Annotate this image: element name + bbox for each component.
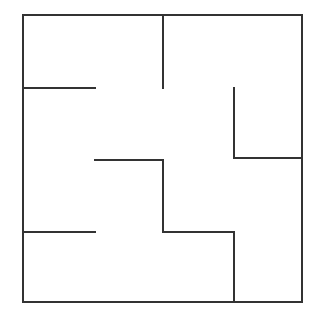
maze-walls (23, 15, 302, 302)
maze-diagram (0, 0, 315, 317)
